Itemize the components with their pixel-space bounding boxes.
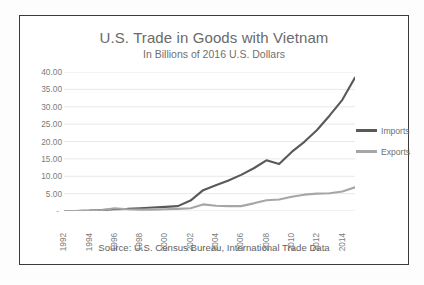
- series-line-exports: [64, 187, 355, 211]
- gridlines: [64, 72, 355, 211]
- legend-swatch-icon: [356, 129, 377, 132]
- legend-item-exports[interactable]: Exports: [356, 141, 422, 162]
- chart-legend: ImportsExports: [356, 120, 422, 162]
- page-background: U.S. Trade in Goods with Vietnam In Bill…: [0, 0, 424, 285]
- y-tick-label: 20.00: [24, 137, 62, 145]
- legend-label: Exports: [381, 147, 410, 157]
- chart-figure-frame: U.S. Trade in Goods with Vietnam In Bill…: [19, 15, 409, 265]
- y-tick-label: 15.00: [24, 155, 62, 163]
- y-tick-label: 35.00: [24, 85, 62, 93]
- y-tick-label: 40.00: [24, 68, 62, 76]
- plot-area: [64, 72, 355, 211]
- line-chart-svg: [64, 72, 355, 211]
- chart-subtitle: In Billions of 2016 U.S. Dollars: [20, 48, 408, 60]
- y-axis-tick-labels: 40.0035.0030.0025.0020.0015.0010.005.00-: [24, 72, 62, 211]
- legend-swatch-icon: [356, 150, 377, 153]
- source-note: Source: U.S. Census Bureau, Internationa…: [20, 242, 408, 253]
- y-tick-label: 25.00: [24, 120, 62, 128]
- legend-label: Imports: [381, 126, 410, 136]
- series-lines: [64, 78, 355, 211]
- y-tick-label: 5.00: [24, 189, 62, 197]
- series-line-imports: [64, 78, 355, 211]
- chart-title: U.S. Trade in Goods with Vietnam: [20, 29, 408, 46]
- y-tick-label: 30.00: [24, 103, 62, 111]
- y-tick-label: -: [21, 207, 62, 215]
- y-tick-label: 10.00: [24, 172, 62, 180]
- legend-item-imports[interactable]: Imports: [356, 120, 422, 141]
